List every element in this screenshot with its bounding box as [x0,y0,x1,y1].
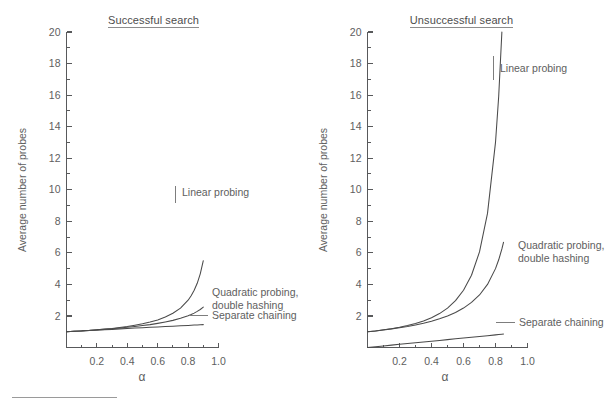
curve-linear-probing [67,261,204,332]
y-tick-label: 6 [356,246,362,258]
curve-linear-probing [368,32,502,332]
annotation-separate-chaining-successful: Separate chaining [212,309,297,321]
annotation-linear-probing-unsuccessful: Linear probing [500,62,567,74]
curve-separate-chaining [368,334,504,347]
y-tick-label: 4 [356,278,362,290]
annotation-separate-chaining-unsuccessful: Separate chaining [519,316,604,328]
y-axis-title-successful: Average number of probes [16,128,28,252]
curves-unsuccessful [368,32,504,348]
y-tick-labels-successful: 2468101214161820 [49,26,61,322]
plot-area-unsuccessful: 2468101214161820 0.20.40.60.81.0 Average… [308,0,615,407]
y-tick-label: 18 [49,57,61,69]
y-tick-label: 8 [356,215,362,227]
y-tick-label: 4 [55,278,61,290]
x-tick-label: 0.8 [181,355,196,367]
x-tick-labels-successful: 0.20.40.60.81.0 [90,355,226,367]
y-tick-label: 14 [49,120,61,132]
y-ticks-unsuccessful [368,32,373,348]
y-tick-label: 20 [49,26,61,38]
axes-unsuccessful [368,32,528,348]
x-tick-labels-unsuccessful: 0.20.40.60.81.0 [392,355,535,367]
y-tick-label: 18 [350,57,362,69]
y-tick-label: 12 [350,152,362,164]
x-tick-label: 0.8 [488,355,503,367]
annotation-quadratic-probing-unsuccessful: Quadratic probing, [518,239,604,251]
y-tick-label: 2 [356,310,362,322]
x-tick-label: 0.6 [456,355,471,367]
plot-area-successful: 2468101214161820 0.20.40.60.81.0 Average… [0,0,307,407]
x-tick-label: 0.6 [150,355,165,367]
annotation-linear-probing-successful: Linear probing [182,186,249,198]
x-ticks-unsuccessful [384,343,528,348]
chart-panel-unsuccessful: Unsuccessful search 2468101214161820 0.2… [308,0,615,407]
x-tick-label: 0.2 [392,355,407,367]
x-ticks-successful [82,343,219,348]
curve-quadratic-probing-double-hashing [368,242,504,331]
curves-successful [67,261,204,332]
y-tick-label: 10 [350,183,362,195]
y-tick-label: 16 [49,89,61,101]
y-tick-label: 10 [49,183,61,195]
annotation-double-hashing-unsuccessful: double hashing [518,252,589,264]
y-tick-label: 2 [55,310,61,322]
y-tick-label: 8 [55,215,61,227]
x-tick-label: 1.0 [211,355,226,367]
x-tick-label: 0.4 [424,355,439,367]
y-tick-label: 16 [350,89,362,101]
chart-panel-successful: Successful search 2468101214161820 0.20.… [0,0,307,407]
x-tick-label: 0.2 [90,355,105,367]
y-tick-label: 6 [55,246,61,258]
y-axis-title-unsuccessful: Average number of probes [317,128,329,252]
x-axis-title-successful: α [139,370,146,384]
x-tick-label: 1.0 [520,355,535,367]
y-ticks-successful [67,32,72,348]
y-tick-label: 14 [350,120,362,132]
figure-root: Successful search 2468101214161820 0.20.… [0,0,615,407]
y-tick-labels-unsuccessful: 2468101214161820 [350,26,362,322]
y-tick-label: 20 [350,26,362,38]
annotation-quadratic-probing-successful: Quadratic probing, [212,286,298,298]
y-tick-label: 12 [49,152,61,164]
x-axis-title-unsuccessful: α [442,370,449,384]
footer-rule [12,397,117,398]
x-tick-label: 0.4 [120,355,135,367]
